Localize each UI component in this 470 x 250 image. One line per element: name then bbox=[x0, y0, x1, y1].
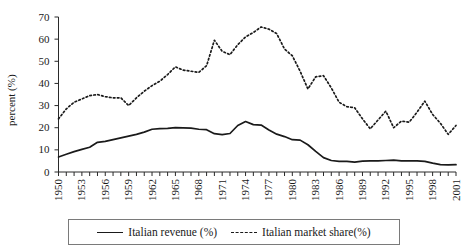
x-tick-label: 1974 bbox=[240, 179, 251, 201]
x-tick-label: 1995 bbox=[404, 179, 415, 201]
x-tick-label: 1989 bbox=[357, 179, 368, 201]
chart-series bbox=[59, 27, 457, 165]
x-tick-label: 1986 bbox=[334, 179, 345, 201]
legend-entry-market-share: Italian market share(%) bbox=[231, 226, 371, 238]
y-tick-label: 70 bbox=[28, 12, 50, 23]
y-tick-label: 40 bbox=[28, 78, 50, 89]
legend-entry-revenue: Italian revenue (%) bbox=[97, 226, 217, 238]
x-tick-label: 1950 bbox=[53, 179, 64, 201]
x-tick-label: 1953 bbox=[76, 179, 87, 201]
y-tick-label: 50 bbox=[28, 56, 50, 67]
y-axis-label: percent (%) bbox=[2, 52, 20, 148]
x-tick-label: 1980 bbox=[287, 179, 298, 201]
x-tick-label: 1992 bbox=[380, 179, 391, 201]
x-tick-label: 2001 bbox=[451, 179, 462, 201]
x-tick-label: 1956 bbox=[100, 179, 111, 201]
y-tick-label: 20 bbox=[28, 122, 50, 133]
y-tick-label: 10 bbox=[28, 144, 50, 155]
chart-axes bbox=[55, 17, 457, 176]
x-tick-label: 1965 bbox=[170, 179, 181, 201]
x-tick-label: 1968 bbox=[193, 179, 204, 201]
x-tick-label: 1977 bbox=[263, 179, 274, 201]
x-tick-label: 1971 bbox=[217, 179, 228, 201]
x-tick-label: 1962 bbox=[147, 179, 158, 201]
x-tick-label: 1998 bbox=[427, 179, 438, 201]
chart-plot-area bbox=[0, 0, 470, 250]
y-tick-label: 0 bbox=[28, 167, 50, 178]
legend-label-revenue: Italian revenue (%) bbox=[128, 226, 217, 238]
x-tick-label: 1983 bbox=[310, 179, 321, 201]
y-tick-label: 30 bbox=[28, 100, 50, 111]
x-tick-label: 1959 bbox=[123, 179, 134, 201]
legend-swatch-dashed-line-icon bbox=[231, 232, 257, 233]
chart-legend: Italian revenue (%) Italian market share… bbox=[68, 219, 400, 245]
y-tick-label: 60 bbox=[28, 34, 50, 45]
legend-swatch-solid-line-icon bbox=[97, 232, 123, 233]
legend-label-market-share: Italian market share(%) bbox=[262, 226, 371, 238]
chart-figure: percent (%) 010203040506070 195019531956… bbox=[0, 0, 470, 250]
